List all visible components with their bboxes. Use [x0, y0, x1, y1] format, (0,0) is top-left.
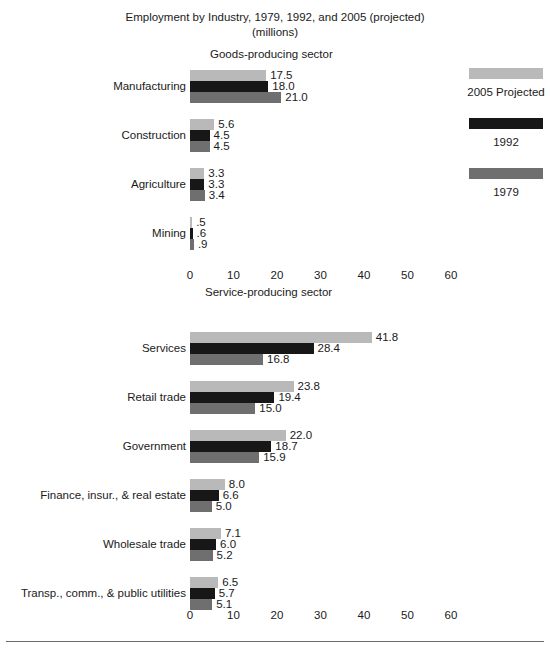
bar-1979: [190, 92, 281, 103]
bar-value-label: 41.8: [376, 332, 398, 343]
bar-group-row: Transp., comm., & public utilities6.55.7…: [0, 577, 550, 610]
bar-1992: [190, 130, 210, 141]
bar-1992: [190, 228, 193, 239]
bar-2005-projected: [190, 332, 372, 343]
bar-value-label: 15.9: [263, 452, 285, 463]
bar-group-row: Government22.018.715.9: [0, 430, 550, 463]
legend-item: 1992: [462, 118, 550, 150]
bar-1992: [190, 441, 271, 452]
category-label: Retail trade: [0, 381, 186, 414]
x-axis-tick-label: 30: [314, 268, 327, 282]
bar-1992: [190, 81, 268, 92]
x-axis-tick-label: 10: [227, 608, 240, 622]
bar-1992: [190, 588, 215, 599]
chart-title: Employment by Industry, 1979, 1992, and …: [0, 10, 550, 40]
bar-2005-projected: [190, 168, 204, 179]
chart-figure: Employment by Industry, 1979, 1992, and …: [0, 0, 550, 657]
bar-1979: [190, 190, 205, 201]
footer-divider: [6, 641, 544, 642]
x-axis-tick-label: 40: [358, 268, 371, 282]
sector-heading: Goods-producing sector: [210, 48, 333, 60]
bar-value-label: 21.0: [285, 92, 307, 103]
x-axis-tick-label: 60: [445, 608, 458, 622]
chart-title-units: (millions): [0, 25, 550, 40]
bar-1979: [190, 452, 259, 463]
x-axis-tick-label: 0: [187, 268, 193, 282]
chart-legend: 2005 Projected19921979: [462, 68, 550, 218]
bar-value-label: .9: [198, 239, 208, 250]
category-label: Finance, insur., & real estate: [0, 479, 186, 512]
bar-1979: [190, 239, 194, 250]
x-axis-tick-label: 40: [358, 608, 371, 622]
bar-2005-projected: [190, 479, 225, 490]
category-label: Wholesale trade: [0, 528, 186, 561]
bar-group-row: Services41.828.416.8: [0, 332, 550, 365]
x-axis-tick-label: 20: [271, 608, 284, 622]
x-axis-tick-label: 30: [314, 608, 327, 622]
chart-title-line1: Employment by Industry, 1979, 1992, and …: [0, 10, 550, 25]
legend-swatch: [469, 68, 543, 79]
legend-swatch: [469, 168, 543, 179]
legend-swatch: [469, 118, 543, 129]
bar-2005-projected: [190, 577, 218, 588]
bar-1979: [190, 501, 212, 512]
bar-2005-projected: [190, 430, 286, 441]
category-label: Construction: [0, 119, 186, 152]
bar-value-label: 15.0: [259, 403, 281, 414]
bar-1979: [190, 403, 255, 414]
bar-1979: [190, 550, 213, 561]
bar-2005-projected: [190, 119, 214, 130]
bar-2005-projected: [190, 70, 266, 81]
bar-group-row: Finance, insur., & real estate8.06.65.0: [0, 479, 550, 512]
legend-label: 2005 Projected: [467, 86, 544, 98]
x-axis-tick-label: 0: [187, 608, 193, 622]
category-label: Agriculture: [0, 168, 186, 201]
x-axis-tick-label: 10: [227, 268, 240, 282]
category-label: Services: [0, 332, 186, 365]
category-label: Government: [0, 430, 186, 463]
x-axis: 0102030405060: [190, 608, 473, 622]
bar-group-row: Wholesale trade7.16.05.2: [0, 528, 550, 561]
bar-value-label: 28.4: [318, 343, 340, 354]
bar-1979: [190, 354, 263, 365]
bar-value-label: 4.5: [214, 141, 230, 152]
bar-1992: [190, 490, 219, 501]
category-label: Manufacturing: [0, 70, 186, 103]
x-axis-tick-label: 50: [401, 268, 414, 282]
x-axis: 0102030405060: [190, 268, 473, 282]
bar-1979: [190, 141, 210, 152]
category-label: Transp., comm., & public utilities: [0, 577, 186, 610]
x-axis-tick-label: 50: [401, 608, 414, 622]
bar-1992: [190, 179, 204, 190]
bar-2005-projected: [190, 217, 192, 228]
category-label: Mining: [0, 217, 186, 250]
x-axis-tick-label: 60: [445, 268, 458, 282]
legend-label: 1992: [493, 136, 519, 148]
sector-heading: Service-producing sector: [205, 286, 332, 298]
bar-1992: [190, 539, 216, 550]
bar-value-label: 19.4: [278, 392, 300, 403]
legend-label: 1979: [493, 186, 519, 198]
bar-1992: [190, 343, 314, 354]
x-axis-tick-label: 20: [271, 268, 284, 282]
bar-value-label: 3.4: [209, 190, 225, 201]
bar-2005-projected: [190, 528, 221, 539]
bar-value-label: 5.0: [216, 501, 232, 512]
legend-item: 2005 Projected: [462, 68, 550, 100]
bar-group-row: Retail trade23.819.415.0: [0, 381, 550, 414]
bar-value-label: 16.8: [267, 354, 289, 365]
bar-group-row: Mining.5.6.9: [0, 217, 550, 250]
bar-value-label: 5.2: [217, 550, 233, 561]
legend-item: 1979: [462, 168, 550, 200]
